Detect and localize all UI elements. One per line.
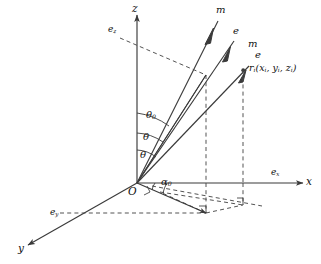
ray-3-line bbox=[137, 66, 249, 183]
azimuth-dashed bbox=[152, 186, 262, 206]
axis-lines bbox=[28, 15, 303, 245]
theta-mid-symbol: θ bbox=[143, 131, 149, 142]
theta-low-symbol: θ bbox=[140, 149, 146, 160]
ray-3-e-head-label: e bbox=[255, 50, 261, 60]
projection-solid-lines bbox=[137, 75, 206, 213]
ez-subscript: z bbox=[113, 28, 116, 34]
ez-projection-dashed bbox=[120, 38, 206, 75]
ey-unit-vector-label: ey bbox=[50, 208, 58, 218]
ri-close-paren: ) bbox=[293, 62, 297, 73]
ray-3-m-head-label: m bbox=[248, 39, 257, 49]
base-diag-2 bbox=[206, 205, 243, 213]
ray-1-arrowhead bbox=[205, 28, 214, 45]
ray-2-head-label: e bbox=[233, 26, 239, 36]
ey-subscript: y bbox=[55, 211, 58, 217]
z-axis-label: z bbox=[132, 3, 138, 14]
direction-rays bbox=[137, 21, 249, 183]
angle-theta-mid-label: θ bbox=[143, 132, 149, 143]
angle-theta-low-label: θ bbox=[140, 150, 146, 161]
position-vector-label: ri(xi, yi, zi) bbox=[249, 63, 296, 74]
x-axis-label: x bbox=[306, 176, 312, 187]
ex-unit-vector-label: ex bbox=[271, 168, 279, 178]
coordinate-system-diagram bbox=[0, 0, 321, 264]
ray-1-line bbox=[137, 21, 218, 183]
angle-theta-0-label: θ0 bbox=[146, 110, 156, 121]
ex-subscript: x bbox=[276, 171, 279, 177]
ez-unit-vector-label: ez bbox=[108, 25, 116, 35]
alpha-0-subscript: 0 bbox=[168, 180, 172, 187]
origin-label: O bbox=[128, 186, 137, 197]
y-axis-label: y bbox=[18, 243, 24, 254]
y-axis bbox=[28, 183, 137, 245]
theta-0-subscript: 0 bbox=[152, 113, 156, 120]
alpha-0-symbol: α bbox=[161, 176, 168, 187]
angle-alpha-0-label: α0 bbox=[161, 177, 172, 188]
right-angle-marks bbox=[144, 186, 243, 213]
ray-1-head-label: m bbox=[216, 5, 225, 15]
theta-mid-arc bbox=[137, 133, 163, 142]
ray-2-arrowhead bbox=[223, 47, 231, 63]
figure-canvas: z x y ez ex ey O m e m e ri(xi, yi, zi) … bbox=[0, 0, 321, 264]
origin-to-upper-projection bbox=[137, 75, 206, 183]
